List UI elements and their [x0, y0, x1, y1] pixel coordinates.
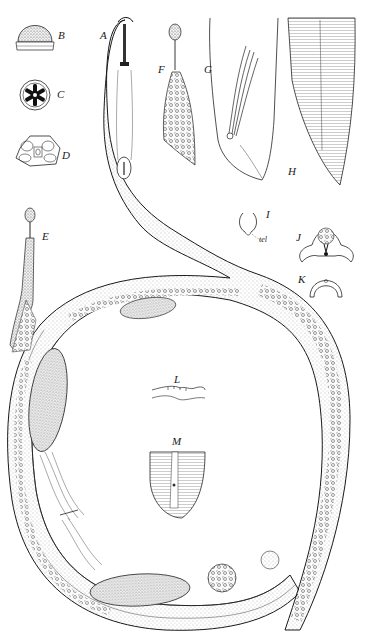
label-a: A [100, 30, 107, 41]
label-i-tel: tel [259, 236, 267, 244]
figure-d-enface [16, 136, 60, 166]
label-e: E [42, 231, 49, 242]
label-g: G [204, 64, 212, 75]
label-h: H [288, 166, 296, 177]
nematode-plate [0, 0, 367, 637]
figure-j-section [300, 228, 354, 262]
label-k: K [298, 274, 305, 285]
figure-l-cuticle [152, 386, 205, 400]
figure-k-section [310, 279, 342, 297]
figure-e-pharynx [10, 208, 36, 352]
figure-g-male-tail [210, 18, 278, 180]
figure-m-tail-tip [150, 452, 205, 518]
figure-f-pharynx [163, 24, 195, 165]
figure-h-tail [288, 18, 355, 185]
label-d: D [62, 150, 70, 161]
label-f: F [158, 64, 165, 75]
label-l: L [174, 374, 180, 385]
label-b: B [58, 30, 65, 41]
label-j: J [296, 232, 301, 243]
figure-c-enface [20, 80, 50, 110]
label-m: M [172, 436, 181, 447]
label-c: C [57, 89, 64, 100]
label-i: I [266, 209, 270, 220]
figure-b-head [16, 26, 54, 51]
